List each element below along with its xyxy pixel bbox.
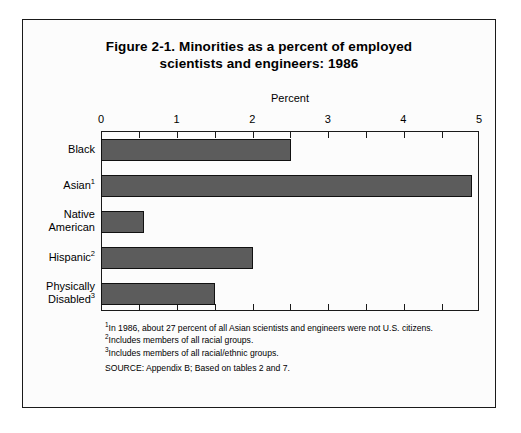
x-tick-label-2: 2 (249, 112, 255, 126)
category-label-1: Asian1 (23, 179, 95, 192)
title-line-2: scientists and engineers: 1986 (23, 55, 495, 72)
axis-tick-mark (215, 132, 216, 138)
x-tick-label-5: 5 (476, 112, 482, 126)
footnote-1: 1In 1986, about 27 percent of all Asian … (105, 322, 485, 334)
axis-tick-mark (139, 132, 140, 138)
x-tick-label-3: 3 (325, 112, 331, 126)
footnote-2: 2Includes members of all racial groups. (105, 334, 485, 346)
page-title: Figure 2-1. Minorities as a percent of e… (23, 38, 495, 72)
axis-tick-mark (404, 132, 405, 138)
footnote-text: In 1986, about 27 percent of all Asian s… (109, 323, 433, 333)
category-label-3: Hispanic2 (23, 251, 95, 264)
axis-tick-mark (442, 132, 443, 138)
bar-1 (101, 175, 473, 197)
x-tick-label-1: 1 (174, 112, 180, 126)
axis-tick-mark (290, 304, 291, 310)
axis-tick-mark (404, 304, 405, 310)
plot-area (101, 131, 479, 311)
axis-tick-mark (366, 132, 367, 138)
category-label-0: Black (23, 143, 95, 156)
footnotes-block: 1In 1986, about 27 percent of all Asian … (105, 322, 485, 375)
x-axis-tick-labels: 012345 (101, 112, 479, 128)
axis-tick-mark (177, 132, 178, 138)
axis-tick-mark (328, 132, 329, 138)
axis-tick-mark (442, 304, 443, 310)
footnote-3: 3Includes members of all racial/ethnic g… (105, 347, 485, 359)
footnote-text: Includes members of all racial groups. (109, 335, 254, 345)
x-axis-label: Percent (101, 92, 479, 104)
x-tick-label-4: 4 (400, 112, 406, 126)
bar-3 (101, 247, 254, 269)
axis-tick-mark (253, 132, 254, 138)
bar-0 (101, 139, 292, 161)
category-label-4: PhysicallyDisabled3 (23, 280, 95, 306)
y-axis-category-labels: BlackAsian1NativeAmericanHispanic2Physic… (23, 131, 95, 311)
footnote-text: Includes members of all racial/ethnic gr… (109, 348, 279, 358)
category-label-2: NativeAmerican (23, 208, 95, 234)
axis-tick-mark (366, 304, 367, 310)
bar-4 (101, 283, 216, 305)
axis-tick-mark (253, 304, 254, 310)
axis-tick-mark (290, 132, 291, 138)
title-line-1: Figure 2-1. Minorities as a percent of e… (23, 38, 495, 55)
source-note: SOURCE: Appendix B; Based on tables 2 an… (105, 362, 485, 374)
x-tick-label-0: 0 (98, 112, 104, 126)
figure-frame: Figure 2-1. Minorities as a percent of e… (22, 19, 496, 408)
bar-2 (101, 211, 144, 233)
axis-tick-mark (328, 304, 329, 310)
